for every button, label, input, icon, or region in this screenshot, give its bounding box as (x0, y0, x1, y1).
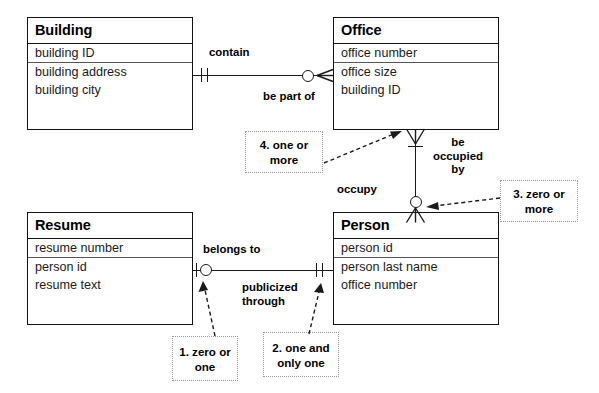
verb-label-be-occupied-by: be occupied by (427, 136, 489, 177)
entity-building-title: Building (28, 18, 192, 44)
entity-resume-attributes: resume number person id resume text (28, 239, 192, 294)
entity-person-attributes: person id person last name office number (334, 239, 498, 294)
cardinality-office-crowfoot (316, 62, 334, 89)
cardinality-office-crowfoot-up (405, 128, 427, 146)
verb-publicized-line-2: through (242, 295, 285, 307)
verb-be-occupied-line-2: occupied (433, 150, 483, 162)
leader-arrow-note-3 (424, 196, 504, 214)
attribute-building-address: building address (28, 63, 192, 81)
entity-resume-title: Resume (28, 213, 192, 239)
attribute-building-id: building ID (28, 44, 192, 63)
cardinality-building-one-tick-2 (207, 68, 208, 82)
attribute-person-id: person id (334, 239, 498, 258)
er-diagram-canvas: Building building ID building address bu… (0, 0, 599, 393)
note-2-one-and-only-one[interactable]: 2. one and only one (263, 332, 339, 377)
cardinality-resume-zero-circle (200, 264, 212, 276)
relationship-line-resume-person[interactable] (193, 270, 333, 271)
leader-arrow-note-2 (305, 278, 331, 336)
leader-arrow-note-1 (197, 278, 221, 338)
cardinality-person-one-tick-2 (322, 263, 323, 277)
attribute-office-number: office number (334, 44, 498, 63)
attribute-person-last-name: person last name (334, 258, 498, 276)
note-4-one-or-more[interactable]: 4. one or more (245, 131, 323, 173)
entity-building[interactable]: Building building ID building address bu… (27, 17, 193, 130)
entity-resume[interactable]: Resume resume number person id resume te… (27, 212, 193, 325)
verb-label-occupy: occupy (337, 183, 377, 197)
verb-label-be-part-of: be part of (263, 90, 315, 104)
entity-office-title: Office (334, 18, 498, 44)
verb-label-publicized-through: publicized through (242, 281, 314, 308)
cardinality-office-zero-circle (302, 70, 314, 82)
entity-office-attributes: office number office size building ID (334, 44, 498, 99)
attribute-building-city: building city (28, 81, 192, 99)
attribute-office-building-id: building ID (334, 81, 498, 99)
entity-building-attributes: building ID building address building ci… (28, 44, 192, 99)
cardinality-resume-tick (196, 263, 197, 277)
note-3-zero-or-more[interactable]: 3. zero or more (500, 180, 578, 222)
verb-publicized-line-1: publicized (242, 281, 298, 293)
leader-arrow-note-4 (322, 128, 406, 168)
attribute-resume-number: resume number (28, 239, 192, 258)
cardinality-office-one-tick (408, 146, 423, 147)
verb-label-belongs-to: belongs to (203, 243, 261, 257)
cardinality-building-one-tick-1 (201, 68, 202, 82)
note-1-zero-or-one[interactable]: 1. zero or one (172, 336, 238, 381)
attribute-person-office-number: office number (334, 276, 498, 294)
entity-person[interactable]: Person person id person last name office… (333, 212, 499, 325)
cardinality-person-one-tick-1 (316, 263, 317, 277)
verb-label-contain: contain (209, 46, 250, 60)
verb-be-occupied-line-1: be (451, 136, 464, 148)
entity-office[interactable]: Office office number office size buildin… (333, 17, 499, 130)
verb-be-occupied-line-3: by (451, 163, 464, 175)
attribute-office-size: office size (334, 63, 498, 81)
attribute-resume-text: resume text (28, 276, 192, 294)
attribute-resume-person-id: person id (28, 258, 192, 276)
